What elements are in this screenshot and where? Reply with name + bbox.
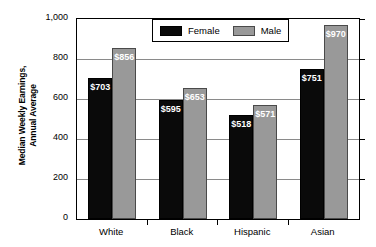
y-tick-mark-right xyxy=(360,59,365,60)
bar-hispanic-female: $518 xyxy=(229,115,253,219)
bar-hispanic-male: $571 xyxy=(253,105,277,219)
category-separator-tick xyxy=(147,219,148,225)
plot-area: $703$856$595$653$518$571$751$970 xyxy=(76,18,360,220)
bar-value-label: $518 xyxy=(230,119,252,129)
bar-black-female: $595 xyxy=(159,100,183,219)
y-tick-mark-right xyxy=(360,139,365,140)
bar-white-female: $703 xyxy=(88,78,112,219)
bar-value-label: $856 xyxy=(113,52,135,62)
bar-asian-female: $751 xyxy=(300,69,324,219)
legend-swatch-male xyxy=(233,26,255,36)
bar-chart: Median Weekly Earnings, Annual Average 0… xyxy=(0,0,376,247)
bar-value-label: $751 xyxy=(301,73,323,83)
legend-entry-male: Male xyxy=(233,26,282,36)
bar-value-label: $595 xyxy=(160,104,182,114)
y-axis-title-line-1: Median Weekly Earnings, xyxy=(17,26,28,206)
chart-legend: Female Male xyxy=(152,19,289,42)
bar-value-label: $970 xyxy=(325,29,347,39)
category-separator-tick xyxy=(288,219,289,225)
legend-swatch-female xyxy=(160,26,182,36)
bar-value-label: $571 xyxy=(254,109,276,119)
y-tick-label: 0 xyxy=(32,213,68,222)
bars-layer: $703$856$595$653$518$571$751$970 xyxy=(77,19,359,219)
y-tick-label: 800 xyxy=(32,53,68,62)
bar-value-label: $703 xyxy=(89,82,111,92)
y-tick-label: 600 xyxy=(32,93,68,102)
bar-black-male: $653 xyxy=(183,88,207,219)
y-tick-label: 1,000 xyxy=(32,13,68,22)
legend-label-female: Female xyxy=(188,26,220,36)
bar-white-male: $856 xyxy=(112,48,136,219)
bar-value-label: $653 xyxy=(184,92,206,102)
bar-asian-male: $970 xyxy=(324,25,348,219)
x-axis-label-black: Black xyxy=(142,226,222,237)
y-tick-mark-right xyxy=(360,19,365,20)
x-axis-label-asian: Asian xyxy=(283,226,363,237)
legend-label-male: Male xyxy=(261,26,282,36)
y-axis-tick-labels: 02004006008001,000 xyxy=(28,0,68,247)
y-tick-mark-right xyxy=(360,179,365,180)
category-separator-tick xyxy=(217,219,218,225)
legend-entry-female: Female xyxy=(160,26,220,36)
x-axis-label-hispanic: Hispanic xyxy=(212,226,292,237)
x-axis-label-white: White xyxy=(71,226,151,237)
y-tick-mark-right xyxy=(360,99,365,100)
y-tick-label: 400 xyxy=(32,133,68,142)
y-tick-label: 200 xyxy=(32,173,68,182)
